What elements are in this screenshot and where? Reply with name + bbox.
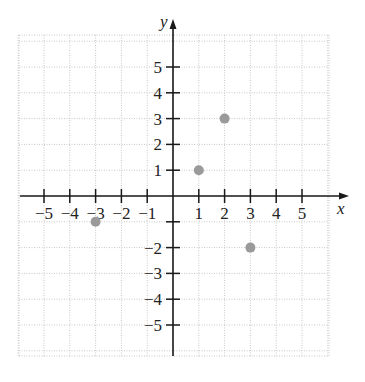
y-axis-arrow-icon (170, 19, 177, 29)
y-tick-label: 3 (154, 110, 163, 129)
data-point (245, 243, 255, 253)
data-point (91, 217, 101, 227)
y-tick-label: 1 (154, 161, 163, 180)
x-tick-label: 2 (220, 204, 229, 223)
x-tick-label: 5 (298, 204, 307, 223)
x-tick-label: 4 (272, 204, 281, 223)
y-tick-label: −2 (144, 239, 162, 258)
y-axis-label: y (158, 12, 168, 31)
data-point (220, 114, 230, 124)
y-tick-label: 4 (154, 84, 163, 103)
x-tick-label: 1 (195, 204, 204, 223)
x-tick-label: −4 (61, 204, 80, 223)
x-axis-label: x (336, 199, 345, 218)
data-point (194, 165, 204, 175)
y-tick-label: −4 (144, 290, 163, 309)
y-tick-label: −5 (144, 316, 162, 335)
y-tick-label: 2 (154, 135, 163, 154)
x-tick-label: −2 (112, 204, 130, 223)
y-tick-label: −3 (144, 264, 162, 283)
x-tick-label: 3 (246, 204, 255, 223)
x-tick-label: −5 (35, 204, 53, 223)
y-tick-label: 5 (154, 58, 163, 77)
x-tick-label: −1 (138, 204, 156, 223)
coordinate-plane: −5−4−3−2−112345−5−4−3−212345 x y (0, 0, 365, 382)
